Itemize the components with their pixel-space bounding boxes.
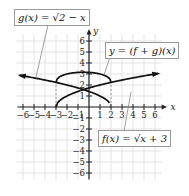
y-tick-label: 5 (80, 47, 85, 57)
y-tick-label: 1 (80, 91, 85, 101)
function-graph: −6−5−4−3−2−1123456654321−1−2−3−4−5−6xy g… (0, 0, 189, 196)
y-axis-arrow-icon (87, 29, 92, 35)
x-tick-label: 3 (119, 110, 124, 120)
x-tick-label: 6 (152, 110, 157, 120)
x-tick-label: 2 (108, 110, 113, 120)
x-tick-label: 4 (130, 110, 135, 120)
y-axis-label: y (92, 26, 99, 36)
y-tick-label: 6 (80, 36, 85, 46)
label-g: g(x) = √2 − x (14, 9, 90, 26)
y-tick-label: −1 (72, 113, 85, 123)
y-tick-label: 4 (80, 58, 85, 68)
arrow-left-icon (18, 74, 26, 79)
x-tick-label: 1 (97, 110, 102, 120)
label-f: f(x) = √x + 3 (98, 130, 171, 147)
x-axis-label: x (170, 102, 175, 112)
curve-g (20, 75, 110, 103)
y-tick-label: −6 (72, 168, 85, 178)
y-tick-label: −4 (72, 146, 85, 156)
y-tick-label: −5 (72, 157, 85, 167)
callout-g (36, 25, 48, 77)
label-f-plus-g: y = (f + g)(x) (105, 42, 179, 59)
callout-fg (104, 57, 110, 75)
x-axis-arrow-icon (162, 105, 168, 110)
y-tick-label: −2 (72, 124, 85, 134)
y-tick-label: −3 (72, 135, 85, 145)
plot-area: −6−5−4−3−2−1123456654321−1−2−3−4−5−6xy (0, 0, 189, 196)
y-tick-label: 3 (80, 69, 85, 79)
x-tick-label: 5 (141, 110, 146, 120)
curve-f (56, 73, 158, 107)
